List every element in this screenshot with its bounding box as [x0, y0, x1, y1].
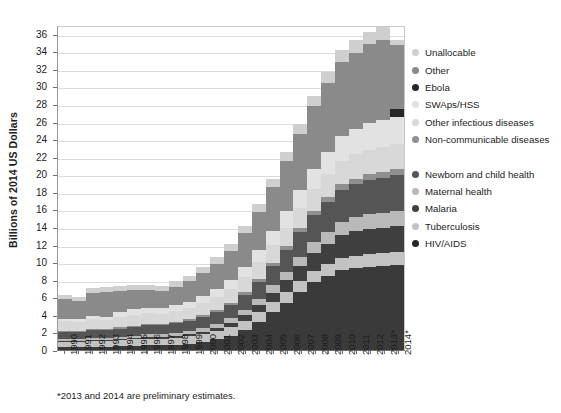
x-axis-tick-mark — [328, 351, 329, 354]
bar-column[interactable] — [196, 27, 210, 350]
bar-segment — [363, 150, 377, 175]
bar-column[interactable] — [363, 27, 377, 350]
x-axis-tick-mark — [259, 351, 260, 354]
bar-segment — [335, 258, 349, 270]
y-axis-tick-label: 20 — [21, 169, 47, 180]
bar-segment — [376, 40, 390, 120]
bar-segment — [321, 72, 335, 83]
bar-segment — [183, 281, 197, 301]
legend-item[interactable]: Other — [412, 61, 560, 78]
legend-item[interactable]: Other infectious diseases — [412, 114, 560, 131]
bar-column[interactable] — [100, 27, 114, 350]
legend-item[interactable]: Ebola — [412, 79, 560, 96]
bar-segment — [86, 293, 100, 317]
legend-swatch-icon — [412, 188, 419, 195]
y-axis-tick-label: 6 — [21, 292, 47, 303]
legend-item-label: Other infectious diseases — [425, 117, 534, 128]
x-axis-tick-mark — [120, 351, 121, 354]
bar-segment — [196, 273, 210, 296]
bar-column[interactable] — [280, 27, 294, 350]
bar-column[interactable] — [141, 27, 155, 350]
bar-segment — [238, 295, 252, 310]
bar-segment — [307, 189, 321, 211]
y-axis-tick-label: 36 — [21, 29, 47, 40]
bar-segment — [390, 109, 404, 117]
bar-segment — [196, 296, 210, 303]
bar-column[interactable] — [72, 27, 86, 350]
bar-segment — [280, 211, 294, 227]
bar-segment — [252, 312, 266, 322]
bar-segment — [321, 152, 335, 175]
bar-segment — [266, 187, 280, 231]
bar-column[interactable] — [169, 27, 183, 350]
legend: UnallocableOtherEbolaSWAps/HSSOther infe… — [412, 44, 560, 252]
y-axis-tick-label: 22 — [21, 152, 47, 163]
bar-segment — [224, 251, 238, 280]
bar-column[interactable] — [321, 27, 335, 350]
x-axis-tick-mark — [231, 351, 232, 354]
bar-column[interactable] — [183, 27, 197, 350]
bar-column[interactable] — [238, 27, 252, 350]
legend-item-label: Malaria — [425, 203, 457, 214]
bar-segment — [252, 262, 266, 278]
bar-column[interactable] — [224, 27, 238, 350]
bar-segment — [307, 169, 321, 190]
legend-item[interactable]: HIV/AIDS — [412, 235, 560, 252]
y-axis-tick-label: 34 — [21, 46, 47, 57]
bar-segment — [183, 321, 197, 331]
bar-segment — [349, 40, 363, 52]
bar-column[interactable] — [210, 27, 224, 350]
legend-item[interactable]: Maternal health — [412, 183, 560, 200]
bar-column[interactable] — [155, 27, 169, 350]
bar-column[interactable] — [307, 27, 321, 350]
bar-segment — [376, 228, 390, 253]
x-axis-tick-mark — [203, 351, 204, 354]
bar-segment — [349, 217, 363, 231]
x-axis-tick-mark — [301, 351, 302, 354]
bar-segment — [390, 252, 404, 265]
legend-item[interactable]: Tuberculosis — [412, 218, 560, 235]
legend-item[interactable]: Non-communicable diseases — [412, 131, 560, 148]
bar-column[interactable] — [349, 27, 363, 350]
legend-item-label: Maternal health — [425, 186, 492, 197]
x-axis-tick-mark — [398, 351, 399, 354]
bar-column[interactable] — [376, 27, 390, 350]
chart-figure: Billions of 2014 US Dollars 024681012141… — [0, 0, 561, 413]
bar-segment — [376, 147, 390, 172]
y-axis-tick-label: 16 — [21, 204, 47, 215]
bar-segment — [252, 212, 266, 251]
bar-segment — [293, 190, 307, 208]
bar-segment — [252, 204, 266, 212]
x-axis-tick-mark — [342, 351, 343, 354]
bar-segment — [390, 144, 404, 169]
bar-segment — [363, 32, 377, 44]
bar-segment — [224, 280, 238, 289]
x-axis-tick-mark — [287, 351, 288, 354]
bar-column[interactable] — [293, 27, 307, 350]
x-axis-tick-mark — [134, 351, 135, 354]
legend-swatch-icon — [412, 136, 419, 143]
legend-swatch-icon — [412, 223, 419, 230]
bar-column[interactable] — [58, 27, 72, 350]
legend-item[interactable]: Newborn and child health — [412, 165, 560, 182]
bar-column[interactable] — [390, 27, 404, 350]
bar-column[interactable] — [86, 27, 100, 350]
legend-item[interactable]: Malaria — [412, 200, 560, 217]
bar-segment — [307, 253, 321, 271]
bar-segment — [349, 154, 363, 178]
bar-column[interactable] — [113, 27, 127, 350]
bar-segment — [58, 321, 72, 330]
bar-column[interactable] — [266, 27, 280, 350]
x-axis-tick-mark — [356, 351, 357, 354]
y-axis-tick-label: 4 — [21, 310, 47, 321]
bar-column[interactable] — [127, 27, 141, 350]
legend-item[interactable]: Unallocable — [412, 44, 560, 61]
bar-column[interactable] — [252, 27, 266, 350]
bar-segment — [321, 174, 335, 197]
bar-segment — [169, 311, 183, 322]
bar-column[interactable] — [335, 27, 349, 350]
bar-segment — [376, 213, 390, 228]
bar-segment — [363, 180, 377, 214]
x-axis-tick-mark — [92, 351, 93, 354]
legend-item[interactable]: SWAps/HSS — [412, 96, 560, 113]
